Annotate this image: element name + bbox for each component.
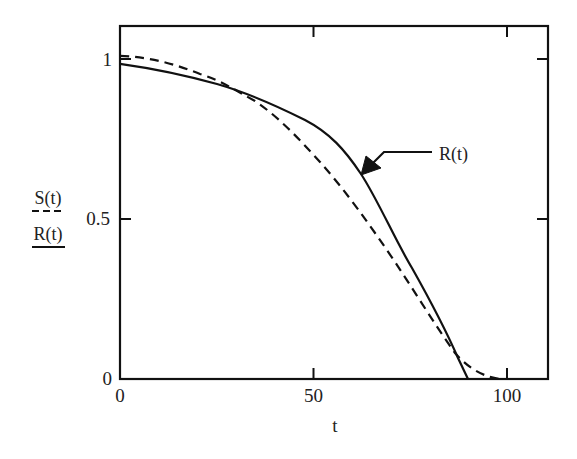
legend-label-s: S(t) bbox=[35, 188, 62, 209]
y-ticks bbox=[120, 59, 548, 219]
legend-label-r: R(t) bbox=[34, 224, 63, 245]
y-tick-label-0.5: 0.5 bbox=[86, 208, 110, 229]
y-tick-label-1: 1 bbox=[103, 49, 113, 70]
legend: S(t) R(t) bbox=[32, 188, 65, 247]
series-s-curve bbox=[120, 56, 500, 379]
y-tick-label-0: 0 bbox=[103, 368, 113, 389]
chart: 0 50 100 0 0.5 1 t S(t) R(t) R(t) bbox=[0, 0, 577, 459]
plot-frame bbox=[120, 26, 548, 379]
annotation-label-r: R(t) bbox=[439, 144, 468, 165]
x-axis-label: t bbox=[332, 415, 338, 436]
x-tick-label-0: 0 bbox=[115, 385, 125, 406]
annotation-arrow bbox=[361, 152, 432, 175]
x-ticks bbox=[314, 26, 508, 379]
x-tick-label-50: 50 bbox=[304, 385, 323, 406]
series-r-curve bbox=[120, 64, 468, 379]
x-tick-label-100: 100 bbox=[493, 385, 522, 406]
